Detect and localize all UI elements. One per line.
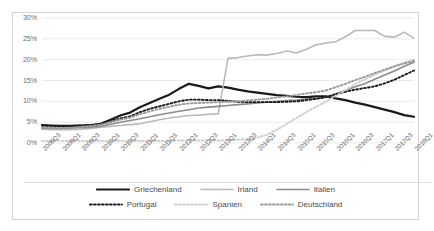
- series-line: [42, 62, 414, 128]
- legend-swatch-icon: [174, 200, 208, 209]
- series-lines: [42, 31, 414, 141]
- legend-swatch-icon: [200, 185, 234, 194]
- series-line: [42, 61, 414, 128]
- y-axis-tick-label: 25%: [9, 34, 37, 43]
- legend-row: GriechenlandIrlandItalien: [12, 182, 419, 197]
- legend-item-label: Irland: [238, 185, 258, 194]
- legend-item[interactable]: Italien: [276, 185, 335, 194]
- legend-item-label: Griechenland: [134, 185, 182, 194]
- legend-swatch-icon: [260, 200, 294, 209]
- legend-item[interactable]: Irland: [200, 185, 258, 194]
- series-line: [42, 31, 414, 130]
- legend-divider: [24, 182, 431, 183]
- legend-item[interactable]: Griechenland: [96, 185, 182, 194]
- y-axis-tick-label: 15%: [9, 76, 37, 85]
- legend-item-label: Spanien: [212, 200, 241, 209]
- legend-row: PortugalSpanienDeutschland: [12, 197, 419, 212]
- legend-item-label: Deutschland: [298, 200, 342, 209]
- legend-swatch-icon: [276, 185, 310, 194]
- y-axis-tick-label: 5%: [9, 117, 37, 126]
- legend-item-label: Italien: [314, 185, 335, 194]
- y-axis-tick-label: 0%: [9, 138, 37, 147]
- legend-item[interactable]: Portugal: [89, 200, 157, 209]
- legend-item-label: Portugal: [127, 200, 157, 209]
- y-axis-tick-label: 10%: [9, 96, 37, 105]
- legend-item[interactable]: Spanien: [174, 200, 241, 209]
- legend-swatch-icon: [89, 200, 123, 209]
- y-axis-tick-label: 30%: [9, 13, 37, 22]
- legend-swatch-icon: [96, 185, 130, 194]
- legend-item[interactable]: Deutschland: [260, 200, 342, 209]
- chart-legend: GriechenlandIrlandItalien PortugalSpanie…: [12, 182, 419, 218]
- y-axis-tick-label: 20%: [9, 55, 37, 64]
